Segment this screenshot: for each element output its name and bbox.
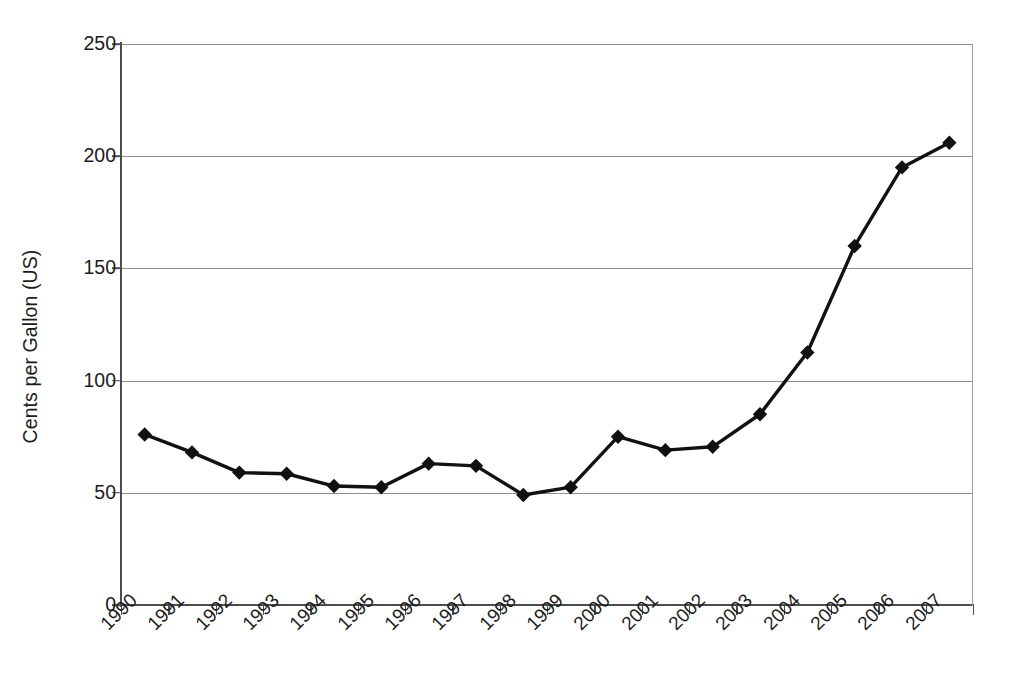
data-point-marker[interactable] bbox=[185, 445, 199, 459]
x-axis-tickmark bbox=[973, 605, 974, 615]
series-layer bbox=[0, 0, 1016, 693]
data-point-marker[interactable] bbox=[658, 443, 672, 457]
data-point-marker[interactable] bbox=[942, 136, 956, 150]
data-point-marker[interactable] bbox=[327, 479, 341, 493]
data-point-marker[interactable] bbox=[137, 427, 151, 441]
data-point-marker[interactable] bbox=[847, 239, 861, 253]
data-point-marker[interactable] bbox=[374, 480, 388, 494]
data-point-marker[interactable] bbox=[232, 465, 246, 479]
data-point-marker[interactable] bbox=[895, 160, 909, 174]
series-line bbox=[145, 143, 950, 495]
data-point-marker[interactable] bbox=[421, 456, 435, 470]
line-chart: Cents per Gallon (US) 050100150200250 19… bbox=[0, 0, 1016, 693]
data-point-marker[interactable] bbox=[279, 467, 293, 481]
